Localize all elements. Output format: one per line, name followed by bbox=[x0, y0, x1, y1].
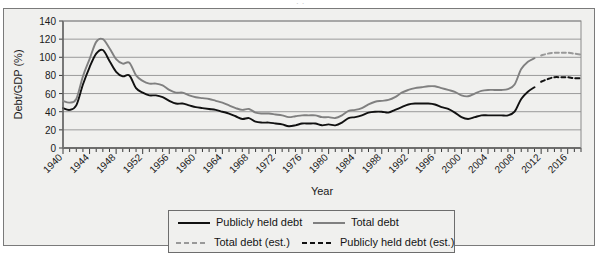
legend-entry-total-debt: Total debt bbox=[312, 217, 399, 228]
legend-row-1: Publicly held debt Total debt bbox=[169, 212, 454, 233]
xtick-label-2004: 2004 bbox=[466, 151, 490, 175]
xtick-label-1980: 1980 bbox=[307, 151, 331, 175]
ytick-label-120: 120 bbox=[39, 34, 56, 45]
legend-swatch-dashed-black bbox=[301, 238, 335, 248]
xtick-label-1972: 1972 bbox=[253, 151, 277, 175]
legend-label-total-debt: Total debt bbox=[351, 217, 399, 228]
legend-swatch-dashed-gray bbox=[175, 238, 209, 248]
xtick-label-1948: 1948 bbox=[94, 151, 118, 175]
xtick-label-1984: 1984 bbox=[333, 151, 357, 175]
clipped-caption-strip: · · bbox=[0, 0, 601, 7]
xtick-label-1952: 1952 bbox=[121, 151, 145, 175]
x-axis-label: Year bbox=[311, 185, 334, 197]
legend-entry-publicly-held-debt: Publicly held debt bbox=[177, 217, 302, 228]
legend-label-publicly-held-debt-est: Publicly held debt (est.) bbox=[340, 237, 454, 248]
ytick-label-100: 100 bbox=[39, 52, 56, 63]
xtick-label-2016: 2016 bbox=[546, 151, 570, 175]
legend-entry-publicly-held-debt-est: Publicly held debt (est.) bbox=[301, 237, 454, 248]
xtick-label-1960: 1960 bbox=[174, 151, 198, 175]
ytick-label-60: 60 bbox=[45, 89, 57, 100]
ytick-label-40: 40 bbox=[45, 107, 57, 118]
chart-frame: 020406080100120140Debt/GDP (%)1940194419… bbox=[3, 8, 595, 246]
xtick-label-2012: 2012 bbox=[519, 151, 543, 175]
xtick-label-2008: 2008 bbox=[492, 151, 516, 175]
legend-swatch-solid-gray bbox=[312, 218, 346, 228]
y-axis-label: Debt/GDP (%) bbox=[12, 49, 24, 119]
legend-entry-total-debt-est: Total debt (est.) bbox=[175, 237, 290, 248]
xtick-label-1996: 1996 bbox=[413, 151, 437, 175]
ytick-label-20: 20 bbox=[45, 125, 57, 136]
xtick-label-1976: 1976 bbox=[280, 151, 304, 175]
xtick-label-2000: 2000 bbox=[439, 151, 463, 175]
xtick-label-1940: 1940 bbox=[41, 151, 65, 175]
ytick-label-140: 140 bbox=[39, 16, 56, 27]
xtick-label-1964: 1964 bbox=[200, 151, 224, 175]
xtick-label-1944: 1944 bbox=[67, 151, 91, 175]
xtick-label-1992: 1992 bbox=[386, 151, 410, 175]
legend-label-publicly-held-debt: Publicly held debt bbox=[216, 217, 302, 228]
xtick-label-1988: 1988 bbox=[360, 151, 384, 175]
xtick-label-1968: 1968 bbox=[227, 151, 251, 175]
figure-container: · · 020406080100120140Debt/GDP (%)194019… bbox=[0, 0, 601, 256]
legend-label-total-debt-est: Total debt (est.) bbox=[214, 237, 290, 248]
legend-swatch-solid-black bbox=[177, 218, 211, 228]
plot-background bbox=[63, 21, 581, 148]
chart-legend: Publicly held debt Total debt Total debt… bbox=[168, 210, 455, 253]
legend-row-2: Total debt (est.) Publicly held debt (es… bbox=[169, 232, 454, 253]
xtick-label-1956: 1956 bbox=[147, 151, 171, 175]
ytick-label-80: 80 bbox=[45, 70, 57, 81]
